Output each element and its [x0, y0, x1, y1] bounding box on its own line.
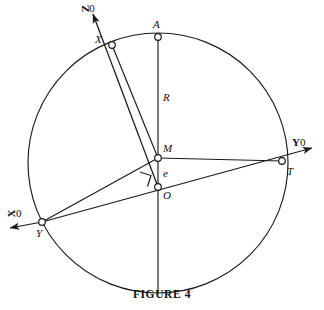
axis-z0-line — [93, 14, 158, 187]
segment-label-e: e — [163, 168, 168, 179]
point-label-A: A — [153, 19, 160, 30]
node-Y — [39, 219, 46, 226]
diagram-canvas — [0, 0, 324, 310]
node-M — [155, 155, 162, 162]
chord-x-to-m — [112, 45, 158, 158]
right-angle-marker-icon — [140, 172, 151, 187]
axis-label-x0: X0 — [8, 208, 21, 219]
chord-m-to-t — [158, 158, 282, 161]
node-T — [279, 158, 286, 165]
figure-caption: FIGURE 4 — [0, 288, 324, 300]
axis-y0-line — [42, 148, 312, 222]
figure-4-diagram: A X Y T M O R e Z0 Y0 X0 FIGURE 4 — [0, 0, 324, 310]
axis-label-y0-suffix: 0 — [300, 136, 306, 148]
chord-y-to-m — [42, 158, 158, 222]
point-label-O: O — [163, 190, 171, 201]
node-X — [109, 42, 116, 49]
axis-label-z0: Z0 — [82, 3, 95, 14]
point-label-X: X — [95, 34, 102, 45]
point-label-M: M — [163, 143, 172, 154]
point-label-Y: Y — [36, 228, 42, 239]
node-O — [155, 184, 162, 191]
point-label-T: T — [287, 166, 293, 177]
axis-label-y0: Y0 — [292, 137, 305, 148]
axis-label-z0-letter: Z — [80, 5, 91, 12]
node-A — [155, 34, 162, 41]
segment-label-R: R — [163, 92, 170, 103]
axis-label-y0-letter: Y — [292, 136, 300, 148]
axis-label-x0-letter: X — [6, 210, 17, 218]
